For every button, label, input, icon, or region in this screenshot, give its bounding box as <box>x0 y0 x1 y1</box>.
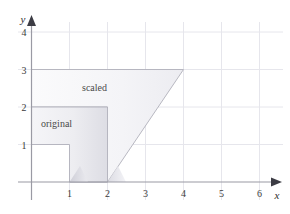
x-tick-label-3: 3 <box>143 188 148 199</box>
y-tick-label-4: 4 <box>22 27 27 38</box>
x-axis-name: x <box>274 189 280 201</box>
x-tick-label-4: 4 <box>181 188 186 199</box>
shape-label-original: original <box>41 118 72 129</box>
x-tick-labels: 1 2 3 4 5 6 <box>67 188 262 199</box>
x-tick-label-2: 2 <box>105 188 110 199</box>
y-axis-arrow-icon <box>27 15 36 26</box>
coordinate-plot: 1 2 3 4 5 6 1 2 3 4 x y original scaled <box>0 0 290 214</box>
x-tick-label-6: 6 <box>257 188 262 199</box>
shape-label-scaled: scaled <box>82 82 107 93</box>
figure-container: 1 2 3 4 5 6 1 2 3 4 x y original scaled <box>0 0 290 214</box>
y-tick-label-3: 3 <box>22 65 27 76</box>
y-axis-name: y <box>20 13 26 25</box>
x-tick-label-5: 5 <box>219 188 224 199</box>
x-axis-arrow-icon <box>271 177 282 186</box>
y-tick-labels: 1 2 3 4 <box>22 27 27 151</box>
y-tick-label-1: 1 <box>22 140 27 151</box>
y-tick-label-2: 2 <box>22 102 27 113</box>
x-tick-label-1: 1 <box>67 188 72 199</box>
